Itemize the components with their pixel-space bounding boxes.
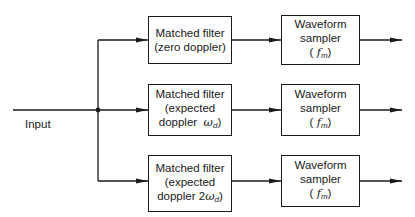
filter-2-line1: Matched filter	[155, 87, 224, 101]
waveform-sampler-3: Waveform sampler ( fm)	[281, 155, 360, 207]
filter-1-line2: (zero doppler)	[154, 40, 226, 54]
sampler-3-line2: sampler	[300, 172, 341, 186]
sampler-1-line2: sampler	[300, 31, 341, 45]
filter-3-line1: Matched filter	[155, 161, 224, 175]
sampler-1-line1: Waveform	[295, 17, 347, 31]
filter-2-line2: (expected	[165, 101, 216, 115]
filter-1-line1: Matched filter	[155, 26, 224, 40]
sampler-3-line3: ( fm)	[310, 186, 332, 204]
matched-filter-expected-doppler-2x: Matched filter (expected doppler 2ωd)	[148, 155, 232, 212]
waveform-sampler-2: Waveform sampler ( fm)	[281, 84, 360, 136]
matched-filter-expected-doppler: Matched filter (expected doppler ωd)	[148, 84, 232, 136]
sampler-2-line3: ( fm)	[310, 115, 332, 133]
sampler-2-line1: Waveform	[295, 87, 347, 101]
sampler-3-line1: Waveform	[295, 158, 347, 172]
filter-3-line3: doppler 2ωd)	[157, 189, 223, 207]
input-label: Input	[25, 118, 51, 130]
matched-filter-zero-doppler: Matched filter (zero doppler)	[148, 16, 232, 64]
sampler-2-line2: sampler	[300, 101, 341, 115]
junction-dot	[96, 108, 101, 113]
filter-2-line3: doppler ωd)	[159, 115, 221, 133]
filter-3-line2: (expected	[165, 175, 216, 189]
sampler-1-line3: ( fm)	[310, 45, 332, 63]
waveform-sampler-1: Waveform sampler ( fm)	[281, 15, 360, 65]
